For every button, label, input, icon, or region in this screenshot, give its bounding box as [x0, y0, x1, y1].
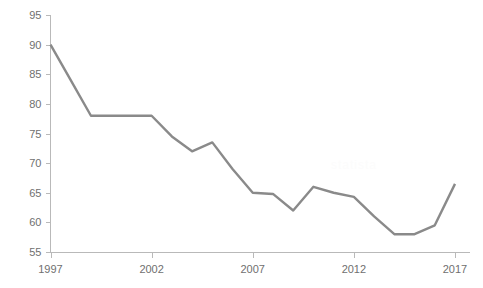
x-tick-label: 2012 — [342, 263, 366, 275]
y-tick-label: 55 — [29, 246, 41, 258]
x-tick-label: 2007 — [241, 263, 265, 275]
y-tick-label: 70 — [29, 157, 41, 169]
y-tick-label: 90 — [29, 39, 41, 51]
y-tick-label: 80 — [29, 98, 41, 110]
line-chart: 556065707580859095 19972002200720122017 — [0, 0, 483, 288]
x-tick-label: 1997 — [38, 263, 62, 275]
y-tick-label: 95 — [29, 9, 41, 21]
watermark-label: statista — [331, 158, 377, 172]
x-tick-label: 2017 — [443, 263, 467, 275]
y-tick-label: 60 — [29, 216, 41, 228]
y-tick-label: 65 — [29, 187, 41, 199]
data-series-line — [51, 45, 456, 235]
chart-container: 556065707580859095 19972002200720122017 … — [0, 0, 483, 288]
y-axis-ticks: 556065707580859095 — [29, 9, 50, 258]
y-tick-label: 85 — [29, 68, 41, 80]
x-tick-label: 2002 — [139, 263, 163, 275]
x-axis-ticks: 19972002200720122017 — [38, 252, 467, 275]
y-tick-label: 75 — [29, 128, 41, 140]
